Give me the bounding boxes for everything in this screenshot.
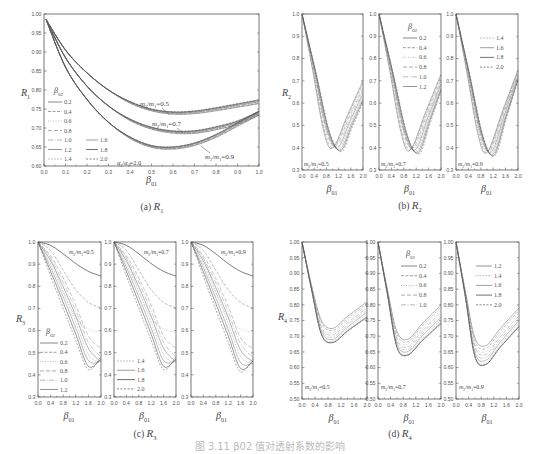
x-tick-label: 0.7 [191,169,198,175]
data-series [46,20,259,133]
y-tick-label: 1.0 [369,11,376,17]
y-tick-label: 0.50 [289,396,299,402]
x-tick-label: 1.6 [347,173,354,179]
y-tick-label: 0.70 [443,333,453,339]
data-series [456,242,519,364]
y-tick-label: 0.4 [446,145,453,151]
x-tick-label: 1.6 [503,402,510,408]
data-series [456,14,518,156]
ratio-annotation: m2/m1=0.7 [381,161,406,169]
legend-label: 0.4 [64,109,72,115]
y-tick-label: 1.0 [446,11,453,17]
y-tick-label: 0.6 [104,327,111,333]
x-tick-label: 1.6 [237,400,244,406]
data-series [302,242,367,342]
legend-label: 0.6 [419,54,427,60]
data-series [456,14,518,155]
y-tick-label: 0.3 [181,394,188,400]
data-series [302,14,363,148]
y-tick-label: 0.60 [31,163,41,169]
y-tick-label: 0.5 [446,122,453,128]
x-tick-label: 0.0 [187,400,194,406]
x-tick-label: 0.0 [375,173,382,179]
legend-label: 1.4 [64,156,72,162]
data-series [379,14,441,149]
y-tick-label: 0.5 [181,350,188,356]
legend-label: 1.2 [494,263,502,269]
x-tick-label: 0.4 [387,402,394,408]
y-tick-label: 0.3 [446,167,453,173]
x-tick-label: 0.0 [374,402,381,408]
panel-caption: (d) R4 [388,427,412,441]
legend-label: 0.4 [60,349,68,355]
y-tick-label: 0.9 [28,261,35,267]
panel-d-subplot: 0.00.40.81.21.62.00.500.550.600.650.700.… [289,239,370,425]
x-tick-label: 0.8 [477,173,484,179]
x-axis-label: β01 [138,410,150,423]
y-tick-label: 0.95 [365,255,375,261]
x-axis-label: β01 [403,183,415,196]
legend-label: 2.0 [494,302,502,308]
y-tick-label: 1.0 [292,11,299,17]
y-tick-label: 0.9 [292,33,299,39]
y-tick-label: 0.80 [31,87,41,93]
y-tick-label: 0.6 [446,100,453,106]
y-tick-label: 0.7 [181,305,188,311]
data-series [456,14,518,157]
data-series [46,20,259,133]
panel-b-r2-chart: 0.00.40.81.21.62.00.30.40.50.60.70.80.91… [281,11,522,213]
x-tick-label: 1.2 [413,173,420,179]
y-tick-label: 0.80 [289,302,299,308]
legend-label: 1.2 [60,387,68,393]
y-tick-label: 0.55 [365,380,375,386]
data-series [46,20,259,134]
legend-label: 2.0 [100,156,108,162]
data-series [114,242,176,363]
x-tick-label: 0.0 [110,400,117,406]
data-series [302,14,363,148]
x-tick-label: 0.4 [311,402,318,408]
y-tick-label: 0.3 [104,394,111,400]
x-tick-label: 2.0 [514,173,521,179]
y-tick-label: 0.4 [28,372,35,378]
x-tick-label: 1.6 [85,400,92,406]
y-tick-label: 0.6 [28,327,35,333]
data-series [38,242,101,363]
data-series [456,242,519,358]
x-tick-label: 0.0 [452,173,459,179]
ratio-annotation: m2/m1=0.5 [304,161,329,169]
legend-label: 1.6 [494,282,502,288]
x-tick-label: 0.4 [465,173,472,179]
panel-d-r4-chart: 0.00.40.81.21.62.00.500.550.600.650.700.… [277,239,523,441]
data-series [302,14,363,146]
y-tick-label: 0.9 [369,33,376,39]
y-tick-label: 0.6 [292,100,299,106]
legend-label: 0.6 [64,118,72,124]
figure-caption: 图 3.11 β02 值对透射系数的影响 [150,438,390,454]
y-tick-label: 0.7 [292,78,299,84]
y-tick-label: 0.3 [28,394,35,400]
data-series [46,20,259,133]
y-tick-label: 0.95 [443,255,453,261]
x-tick-label: 1.2 [412,402,419,408]
data-series [456,14,518,152]
x-tick-label: 1.6 [425,402,432,408]
y-tick-label: 0.95 [31,30,41,36]
legend-label: 1.0 [64,137,72,143]
legend-title: β02 [53,86,63,97]
data-series [456,242,519,361]
y-tick-label: 0.65 [289,349,299,355]
data-series [379,14,441,151]
legend-label: 1.8 [100,147,108,153]
x-tick-label: 1.2 [490,173,497,179]
y-tick-label: 0.75 [443,317,453,323]
y-tick-label: 0.7 [104,305,111,311]
y-tick-label: 0.9 [446,33,453,39]
data-series [191,242,253,364]
legend-title: β02 [407,22,417,33]
y-axis-label: R2 [281,87,291,100]
data-series [379,14,441,149]
y-tick-label: 0.95 [289,255,299,261]
data-series [379,14,441,150]
legend-label: 0.2 [64,99,72,105]
